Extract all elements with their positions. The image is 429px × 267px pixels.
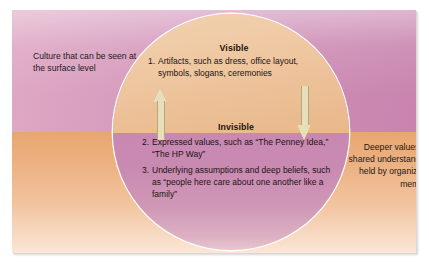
visible-layer-block: Visible 1. Artifacts, such as dress, off… [144, 43, 324, 79]
list-item-number: 1. [144, 56, 155, 68]
list-item-number: 3. [138, 165, 149, 177]
down-arrow-shaft [301, 86, 309, 126]
invisible-layer-block: Invisible 2. Expressed values, such as “… [138, 122, 334, 201]
list-item: 3. Underlying assumptions and deep belie… [138, 165, 334, 200]
list-item-text: Underlying assumptions and deep beliefs,… [152, 165, 330, 198]
invisible-item-list: 2. Expressed values, such as “The Penney… [138, 137, 334, 201]
figure-plate: Culture that can be seen at the surface … [12, 10, 416, 253]
list-item-text: Artifacts, such as dress, office layout,… [158, 56, 298, 78]
list-item-number: 2. [138, 137, 149, 149]
visible-item-list: 1. Artifacts, such as dress, office layo… [144, 56, 324, 79]
culture-levels-figure: Culture that can be seen at the surface … [0, 0, 429, 267]
list-item-text: Expressed values, such as “The Penney Id… [152, 137, 328, 159]
surface-level-caption: Culture that can be seen at the surface … [33, 50, 141, 74]
visible-heading: Visible [144, 43, 324, 53]
deeper-level-caption: Deeper values and shared understandings … [344, 141, 416, 190]
list-item: 2. Expressed values, such as “The Penney… [138, 137, 334, 160]
up-arrow-head [153, 88, 167, 102]
invisible-heading: Invisible [138, 122, 334, 132]
list-item: 1. Artifacts, such as dress, office layo… [144, 56, 324, 79]
